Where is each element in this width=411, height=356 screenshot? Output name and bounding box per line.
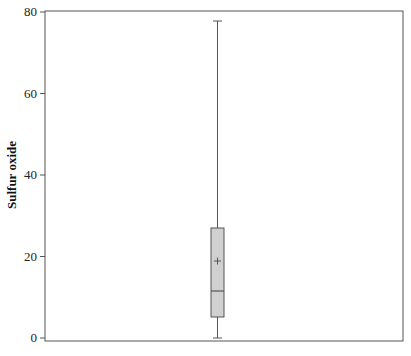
y-tick-20: 20: [24, 249, 37, 264]
y-tick-40: 40: [24, 167, 37, 182]
iqr-box: [211, 228, 224, 317]
y-axis: 0 20 40 60 80: [24, 4, 45, 345]
y-axis-title: Sulfur oxide: [4, 141, 19, 209]
box-series: [211, 21, 224, 338]
y-tick-80: 80: [24, 4, 37, 19]
y-tick-60: 60: [24, 86, 37, 101]
y-tick-0: 0: [31, 330, 38, 345]
box-plot: 0 20 40 60 80 Sulfur oxide: [0, 0, 411, 356]
